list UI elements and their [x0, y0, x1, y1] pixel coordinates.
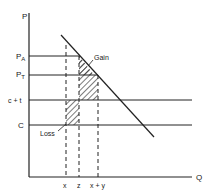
- gain-pointer: [88, 60, 93, 66]
- gain-label: Gain: [94, 54, 109, 61]
- label-xy: x + y: [90, 182, 105, 190]
- gain-area-upper: [79, 56, 94, 75]
- label-pa: PA: [16, 52, 25, 62]
- label-x: x: [63, 182, 67, 189]
- y-axis-label: P: [22, 12, 27, 21]
- loss-area: [66, 100, 79, 125]
- trade-gain-loss-diagram: P Q PA PT c + t C x z x + y Gain Loss: [0, 0, 208, 195]
- loss-label: Loss: [40, 130, 55, 137]
- label-pt: PT: [16, 70, 25, 80]
- x-axis-label: Q: [196, 173, 202, 182]
- label-c: C: [18, 121, 24, 130]
- label-z: z: [77, 182, 81, 189]
- label-ct: c + t: [8, 97, 21, 104]
